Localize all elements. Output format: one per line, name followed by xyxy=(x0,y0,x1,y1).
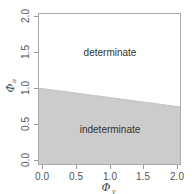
x-tick-label: 0.5 xyxy=(69,171,83,182)
y-tick-label: 0.0 xyxy=(20,153,31,167)
x-axis-label: Φ y xyxy=(101,181,116,194)
x-tick-label: 0.0 xyxy=(35,171,49,182)
y-axis xyxy=(34,17,38,161)
svg-text:Φ: Φ xyxy=(4,83,17,92)
x-axis xyxy=(43,165,178,169)
y-tick-label: 0.5 xyxy=(20,117,31,131)
svg-text:y: y xyxy=(111,187,116,194)
determinate-label: determinate xyxy=(84,47,137,58)
svg-text:Φ: Φ xyxy=(101,181,110,194)
indeterminate-label: indeterminate xyxy=(80,124,141,135)
x-tick-label: 1.5 xyxy=(136,171,150,182)
y-axis-label: Φ π xyxy=(4,78,17,93)
svg-text:π: π xyxy=(10,78,17,84)
x-tick-label: 2.0 xyxy=(170,171,184,182)
y-tick-label: 1.5 xyxy=(20,45,31,59)
y-tick-label: 1.0 xyxy=(20,81,31,95)
chart-figure: 0.0 0.5 1.0 1.5 2.0 0.0 0.5 1.0 1.5 2.0 … xyxy=(0,0,192,194)
y-tick-label: 2.0 xyxy=(20,9,31,23)
